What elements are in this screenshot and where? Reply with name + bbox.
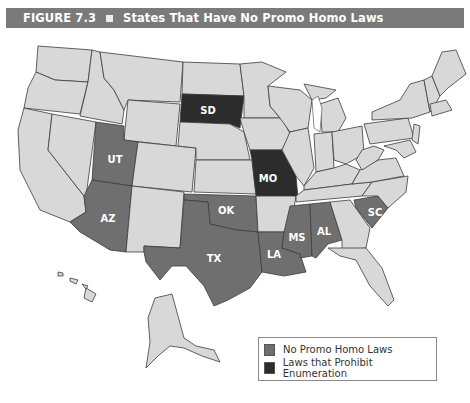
label-sd: SD [200, 105, 216, 116]
legend-label: No Promo Homo Laws [283, 344, 392, 355]
label-sc: SC [368, 207, 383, 218]
figure-number: FIGURE 7.3 [23, 11, 96, 25]
square-bullet-icon [106, 15, 113, 22]
label-la: LA [267, 249, 281, 260]
label-tx: TX [207, 253, 222, 264]
label-al: AL [317, 226, 332, 237]
label-ok: OK [218, 205, 236, 216]
label-az: AZ [101, 213, 116, 224]
legend-swatch-no-promo-homo [264, 344, 275, 356]
legend: No Promo Homo Laws Laws that Prohibit En… [258, 337, 437, 381]
label-mo: MO [259, 173, 277, 184]
label-ms: MS [288, 232, 305, 243]
legend-swatch-prohibit-enumeration [264, 362, 275, 374]
legend-item-prohibit-enumeration: Laws that Prohibit Enumeration [264, 359, 436, 376]
figure-title-bar: FIGURE 7.3 States That Have No Promo Hom… [6, 8, 464, 28]
legend-label: Laws that Prohibit Enumeration [283, 357, 436, 379]
legend-item-no-promo-homo: No Promo Homo Laws [264, 341, 436, 358]
figure-title: States That Have No Promo Homo Laws [123, 11, 384, 25]
label-ut: UT [108, 154, 123, 165]
